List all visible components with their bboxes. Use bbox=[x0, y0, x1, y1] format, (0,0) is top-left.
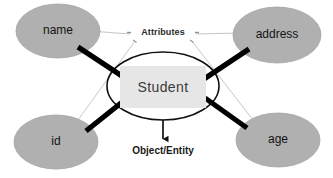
oval-age[interactable] bbox=[236, 113, 320, 167]
oval-address[interactable] bbox=[233, 7, 321, 63]
attributes-tick-lower-right bbox=[190, 40, 194, 43]
attributes-tick-lower-left bbox=[133, 40, 137, 43]
connector-address-student[interactable] bbox=[204, 49, 249, 79]
oval-id[interactable] bbox=[14, 115, 98, 169]
oval-name[interactable] bbox=[16, 4, 100, 58]
er-diagram: name address id age Attributes Student O… bbox=[0, 0, 333, 178]
connector-age-student[interactable] bbox=[205, 98, 247, 128]
connector-name-student[interactable] bbox=[78, 47, 125, 78]
entity-label-plate bbox=[120, 66, 206, 108]
